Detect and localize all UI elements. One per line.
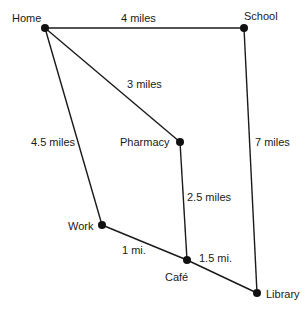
node-label-cafe: Café <box>165 271 188 283</box>
node-home <box>41 24 49 32</box>
edge-label-home-work: 4.5 miles <box>31 136 76 148</box>
node-cafe <box>183 256 191 264</box>
node-work <box>98 221 106 229</box>
node-label-pharmacy: Pharmacy <box>120 136 170 148</box>
edge-cafe-library <box>187 260 257 293</box>
edge-label-home-school: 4 miles <box>121 12 156 24</box>
edge-home-work <box>45 28 102 225</box>
edge-label-pharmacy-cafe: 2.5 miles <box>187 191 232 203</box>
node-school <box>240 24 248 32</box>
node-label-library: Library <box>266 288 300 300</box>
edge-label-home-pharmacy: 3 miles <box>127 78 162 90</box>
edge-label-school-library: 7 miles <box>255 136 290 148</box>
node-library <box>253 289 261 297</box>
node-labels-group: HomeSchoolPharmacyWorkCaféLibrary <box>12 10 300 300</box>
node-label-school: School <box>244 10 278 22</box>
node-label-work: Work <box>68 220 94 232</box>
edge-label-cafe-library: 1.5 mi. <box>199 252 232 264</box>
edge-pharmacy-cafe <box>180 142 187 260</box>
route-distance-diagram: 4 miles3 miles4.5 miles7 miles2.5 miles1… <box>0 0 306 317</box>
edge-label-work-cafe: 1 mi. <box>122 244 146 256</box>
edge-school-library <box>244 28 257 293</box>
node-label-home: Home <box>12 12 41 24</box>
node-pharmacy <box>176 138 184 146</box>
